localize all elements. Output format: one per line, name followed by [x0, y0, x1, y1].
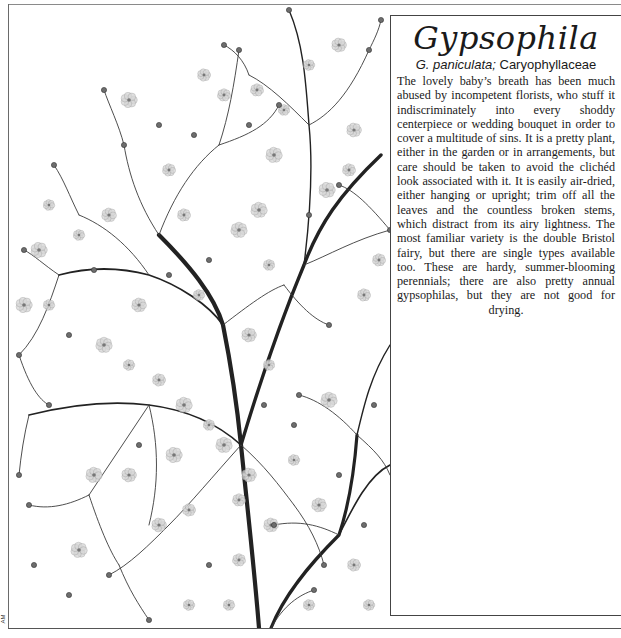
- stem: [223, 285, 284, 325]
- flower-bud: [31, 562, 36, 567]
- flower-cluster: [152, 518, 167, 532]
- flower-cluster: [102, 208, 117, 222]
- flower-cluster: [347, 123, 362, 137]
- flower-cluster: [16, 297, 32, 312]
- flower-cluster: [203, 420, 214, 431]
- description-panel: Gypsophila G. paniculata; Caryophyllacea…: [390, 15, 621, 616]
- flower-bud: [246, 122, 251, 127]
- stem: [159, 145, 219, 235]
- flower-cluster: [153, 374, 166, 386]
- stem: [249, 75, 309, 125]
- flower-cluster: [312, 498, 327, 512]
- flower-cluster: [250, 84, 263, 96]
- flower-bud: [236, 47, 241, 52]
- flower-cluster: [96, 337, 112, 352]
- flower-cluster: [332, 38, 347, 52]
- species-name: G. paniculata;: [416, 57, 496, 72]
- flower-bud: [166, 272, 171, 277]
- flower-bud: [206, 257, 211, 262]
- stem: [124, 145, 159, 235]
- flower-bud: [276, 102, 281, 107]
- flower-cluster: [121, 92, 137, 107]
- stem: [19, 275, 59, 355]
- flower-bud: [51, 162, 56, 167]
- flower-cluster: [31, 242, 47, 257]
- flower-bud: [221, 42, 226, 47]
- stem: [29, 495, 89, 507]
- flower-bud: [296, 392, 301, 397]
- family-name: Caryophyllaceae: [500, 57, 597, 72]
- flower-cluster: [73, 230, 84, 241]
- flower-bud: [101, 87, 106, 92]
- stem: [79, 215, 149, 275]
- stem: [274, 523, 339, 535]
- flower-cluster: [303, 600, 314, 611]
- flower-cluster: [242, 468, 257, 482]
- flower-bud: [271, 522, 276, 527]
- flower-bud: [306, 212, 311, 217]
- flower-cluster: [216, 437, 232, 452]
- flower-bud: [371, 402, 376, 407]
- flower-bud: [66, 592, 71, 597]
- flower-cluster: [231, 222, 247, 237]
- stem: [149, 405, 157, 525]
- flower-cluster: [183, 504, 196, 516]
- flower-cluster: [242, 328, 257, 342]
- stem: [369, 20, 381, 50]
- flower-bud: [361, 522, 366, 527]
- flower-bud: [378, 17, 383, 22]
- flower-bud: [286, 7, 291, 12]
- flower-bud: [261, 402, 266, 407]
- flower-bud: [326, 322, 331, 327]
- flower-cluster: [319, 182, 335, 197]
- flower-bud: [26, 502, 31, 507]
- flower-bud: [46, 402, 51, 407]
- flower-cluster: [373, 254, 386, 266]
- corner-mark: AM: [0, 615, 6, 624]
- flower-cluster: [266, 147, 282, 162]
- flower-cluster: [232, 494, 245, 506]
- flower-cluster: [123, 360, 134, 371]
- flower-cluster: [71, 542, 87, 557]
- gypsophila-illustration: [9, 5, 390, 628]
- flower-cluster: [86, 467, 102, 482]
- flower-bud: [66, 332, 71, 337]
- flower-bud: [366, 47, 371, 52]
- flower-bud: [121, 142, 126, 147]
- stem: [357, 345, 390, 435]
- flower-cluster: [223, 600, 234, 611]
- flower-cluster: [288, 455, 299, 466]
- stem: [284, 285, 329, 325]
- flower-cluster: [348, 559, 361, 571]
- flower-cluster: [132, 298, 147, 312]
- flower-bud: [191, 132, 196, 137]
- flower-bud: [311, 587, 316, 592]
- flower-bud: [21, 247, 26, 252]
- flower-bud: [16, 472, 21, 477]
- stem: [289, 10, 311, 265]
- stem: [89, 495, 119, 565]
- plant-title: Gypsophila: [391, 20, 621, 56]
- flower-bud: [206, 562, 211, 567]
- flower-bud: [156, 122, 161, 127]
- flower-cluster: [363, 600, 374, 611]
- flower-cluster: [166, 447, 182, 462]
- flower-bud: [136, 442, 141, 447]
- flower-bud: [291, 422, 296, 427]
- flower-cluster: [217, 89, 230, 101]
- flower-cluster: [43, 200, 54, 211]
- flower-cluster: [198, 69, 211, 81]
- flower-cluster: [122, 468, 137, 482]
- flower-cluster: [43, 300, 54, 311]
- flower-cluster: [251, 202, 267, 217]
- flower-bud: [336, 182, 341, 187]
- flower-cluster: [358, 289, 371, 301]
- flower-bud: [321, 562, 326, 567]
- flower-cluster: [183, 600, 194, 611]
- stem: [271, 435, 357, 628]
- stem: [357, 435, 390, 475]
- flower-bud: [146, 617, 151, 622]
- stem: [109, 525, 169, 575]
- stem: [19, 415, 29, 475]
- flower-cluster: [232, 554, 245, 566]
